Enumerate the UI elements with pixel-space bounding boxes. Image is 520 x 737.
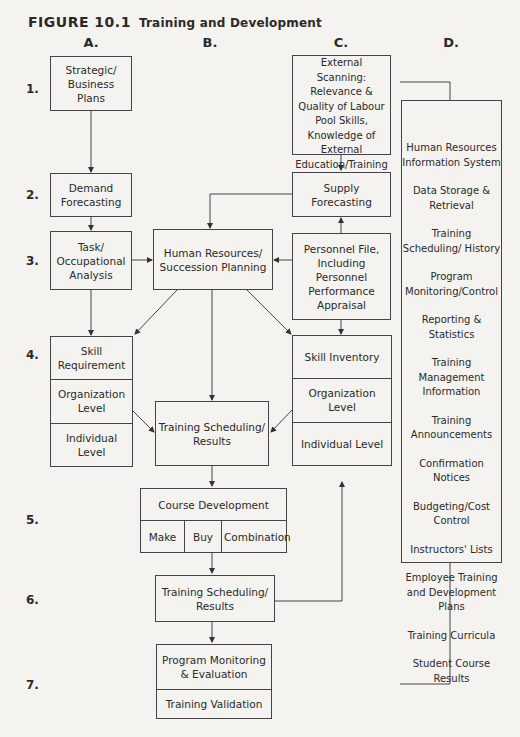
hr-succession-text: Human Resources/ Succession Planning [154, 230, 272, 289]
skill-inv-individual-level: Individual Level [293, 422, 391, 465]
training-scheduling-2-text: Training Scheduling/ Results [156, 576, 274, 621]
strategic-plans-text: Strategic/ Business Plans [51, 57, 131, 110]
box-skill-inventory: Skill Inventory Organization Level Indiv… [292, 335, 392, 466]
external-scanning-text: External Scanning: Relevance & Quality o… [293, 56, 390, 172]
box-program-monitoring: Program Monitoring & Evaluation Training… [156, 644, 272, 719]
hris-item: Human Resources Information System [402, 141, 501, 170]
box-course-development: Course Development Make Buy Combination [140, 488, 287, 553]
box-supply-forecasting: Supply Forecasting [292, 172, 391, 217]
box-training-scheduling-2: Training Scheduling/ Results [155, 575, 275, 622]
box-hr-succession: Human Resources/ Succession Planning [153, 229, 273, 290]
hris-item: Student Course Results [402, 657, 501, 686]
skill-inventory-text: Skill Inventory [293, 336, 391, 378]
course-development-text: Course Development [141, 489, 286, 520]
box-strategic-plans: Strategic/ Business Plans [50, 56, 132, 111]
hris-item: Employee Training and Development Plans [402, 571, 501, 615]
box-task-analysis: Task/ Occupational Analysis [50, 231, 132, 290]
skill-inv-org-level: Organization Level [293, 378, 391, 421]
training-validation-text: Training Validation [157, 689, 271, 718]
demand-forecasting-text: Demand Forecasting [51, 174, 131, 216]
course-combination: Combination [221, 521, 293, 552]
box-external-scanning: External Scanning: Relevance & Quality o… [292, 55, 391, 155]
hris-item: Budgeting/Cost Control [402, 500, 501, 529]
box-training-scheduling-1: Training Scheduling/ Results [155, 401, 269, 466]
hris-item: Training Scheduling/ History [402, 227, 501, 256]
box-demand-forecasting: Demand Forecasting [50, 173, 132, 217]
course-make: Make [141, 521, 184, 552]
box-personnel-file: Personnel File, Including Personnel Perf… [292, 233, 391, 320]
box-hris-list: Human Resources Information System Data … [401, 100, 502, 563]
program-monitoring-text: Program Monitoring & Evaluation [157, 645, 271, 689]
course-buy: Buy [184, 521, 221, 552]
hris-item: Reporting & Statistics [402, 313, 501, 342]
hris-item: Confirmation Notices [402, 457, 501, 486]
training-scheduling-1-text: Training Scheduling/ Results [156, 402, 268, 465]
hris-item: Training Announcements [402, 414, 501, 443]
box-skill-requirement: Skill Requirement Organization Level Ind… [50, 336, 133, 467]
hris-item: Instructors' Lists [402, 543, 501, 558]
skill-requirement-text: Skill Requirement [51, 337, 132, 379]
personnel-file-text: Personnel File, Including Personnel Perf… [293, 234, 390, 319]
skill-req-individual-level: Individual Level [51, 423, 132, 466]
hris-item: Training Management Information [402, 356, 501, 400]
skill-req-org-level: Organization Level [51, 379, 132, 422]
hris-item: Training Curricula [402, 629, 501, 644]
supply-forecasting-text: Supply Forecasting [293, 173, 390, 216]
hris-item: Program Monitoring/Control [402, 270, 501, 299]
hris-item: Data Storage & Retrieval [402, 184, 501, 213]
task-analysis-text: Task/ Occupational Analysis [51, 232, 131, 289]
